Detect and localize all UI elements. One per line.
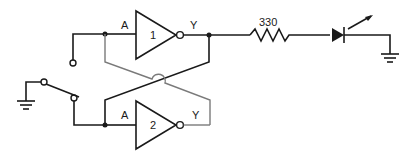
led-diode <box>332 15 373 43</box>
gate1-input-label: A <box>121 19 129 31</box>
gate2-input-label: A <box>121 109 129 121</box>
gate2-output-label: Y <box>192 109 200 121</box>
resistor: 330 <box>250 16 330 41</box>
ground-symbol-left <box>17 82 41 109</box>
gate1-output-label: Y <box>190 19 198 31</box>
upper-switch-terminal <box>70 34 105 66</box>
circuit-diagram: 1 A Y 2 A Y <box>0 0 420 158</box>
gate2-number: 2 <box>150 119 156 131</box>
gate1-number: 1 <box>150 29 156 41</box>
ground-symbol-right <box>344 35 399 62</box>
spdt-switch <box>41 79 79 101</box>
resistor-value-label: 330 <box>259 16 277 28</box>
